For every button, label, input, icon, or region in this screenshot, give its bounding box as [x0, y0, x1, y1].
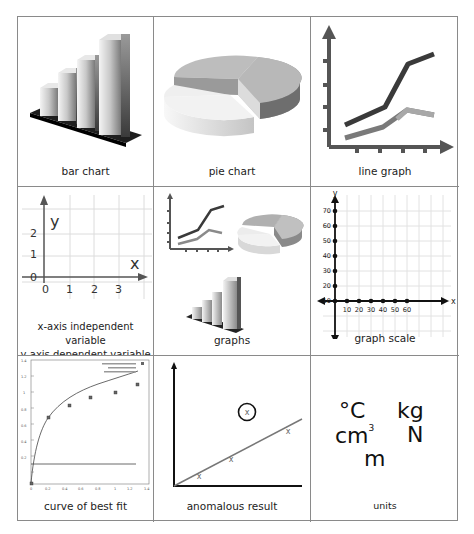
cell-line-graph: line graph — [311, 17, 459, 187]
svg-text:40: 40 — [379, 306, 387, 314]
svg-text:x: x — [130, 254, 139, 273]
svg-text:x: x — [197, 472, 202, 481]
svg-text:50: 50 — [391, 306, 399, 314]
svg-text:30: 30 — [323, 267, 331, 275]
bar-chart-3d-icon — [26, 25, 146, 155]
cell-bar-chart: bar chart — [18, 17, 154, 187]
svg-text:y: y — [333, 189, 338, 198]
svg-text:60: 60 — [403, 306, 411, 314]
graph-scale-diagram: y x 70 60 50 40 30 20 10 10 20 30 40 50 … — [311, 187, 459, 339]
caption-graph-scale: graph scale — [311, 332, 459, 344]
cell-pie-chart: pie chart — [154, 17, 311, 187]
anomalous-result-plot: x x x x — [154, 356, 311, 496]
svg-text:10: 10 — [343, 306, 351, 314]
svg-text:1: 1 — [66, 283, 73, 296]
svg-text:50: 50 — [323, 237, 331, 245]
caption-axes: x-axis independent variable y-axis depen… — [18, 320, 153, 356]
svg-text:1: 1 — [114, 487, 116, 491]
cell-axes: y x 2 1 0 0 1 2 3 x-axis independent var… — [18, 187, 154, 356]
svg-text:1: 1 — [30, 248, 37, 261]
cell-curve-best-fit: 1.4 1.2 1 0.8 0.6 0.4 0.2 0 0.2 0.4 0.6 … — [18, 356, 154, 522]
svg-text:0: 0 — [30, 271, 37, 284]
svg-text:0.4: 0.4 — [21, 440, 27, 444]
caption-bar-chart: bar chart — [18, 165, 153, 177]
svg-text:0.4: 0.4 — [62, 487, 68, 491]
svg-text:0.6: 0.6 — [78, 487, 84, 491]
svg-text:20: 20 — [323, 282, 331, 290]
caption-curve-best-fit: curve of best fit — [18, 500, 153, 512]
svg-text:0: 0 — [42, 283, 49, 296]
pie-chart-3d-icon — [160, 37, 306, 147]
svg-text:x: x — [451, 297, 456, 306]
caption-y-axis: y-axis dependent variable — [18, 348, 153, 356]
svg-text:x: x — [229, 455, 234, 464]
svg-text:x: x — [286, 427, 291, 436]
svg-text:0.8: 0.8 — [95, 487, 101, 491]
mini-bar-chart-icon — [184, 275, 248, 337]
svg-text:60: 60 — [323, 222, 331, 230]
svg-text:2: 2 — [30, 227, 37, 240]
svg-text:1.2: 1.2 — [21, 375, 27, 379]
mini-pie-chart-icon — [236, 207, 304, 257]
svg-text:y: y — [50, 212, 59, 231]
caption-x-axis: x-axis independent variable — [18, 320, 153, 348]
caption-line-graph: line graph — [311, 165, 459, 177]
svg-text:x: x — [245, 408, 250, 417]
cell-units: °C kg cm3 N m units — [311, 356, 459, 522]
svg-text:0.8: 0.8 — [21, 408, 27, 412]
svg-text:1.2: 1.2 — [127, 487, 133, 491]
curve-of-best-fit-plot: 1.4 1.2 1 0.8 0.6 0.4 0.2 0 0.2 0.4 0.6 … — [18, 356, 154, 496]
line-graph-icon — [317, 23, 457, 158]
unit-metre: m — [364, 448, 385, 470]
graph-types-grid: bar chart pie chart — [17, 16, 458, 521]
svg-text:70: 70 — [323, 207, 331, 215]
cell-graphs: graphs — [154, 187, 311, 356]
unit-newton: N — [407, 424, 423, 446]
caption-pie-chart: pie chart — [154, 165, 310, 177]
svg-text:0: 0 — [30, 487, 32, 491]
cell-anomalous-result: x x x x anomalous result — [154, 356, 311, 522]
svg-text:3: 3 — [115, 283, 122, 296]
caption-units: units — [311, 500, 459, 511]
svg-text:40: 40 — [323, 252, 331, 260]
axes-diagram: y x 2 1 0 0 1 2 3 — [18, 187, 154, 302]
svg-text:0.2: 0.2 — [45, 487, 51, 491]
cell-graph-scale: y x 70 60 50 40 30 20 10 10 20 30 40 50 … — [311, 187, 459, 356]
svg-text:1: 1 — [23, 391, 25, 395]
caption-graphs: graphs — [154, 334, 310, 346]
svg-text:30: 30 — [367, 306, 375, 314]
mini-line-graph-icon — [164, 193, 234, 255]
unit-cubic-centimetre: cm3 — [335, 424, 374, 447]
svg-text:0.6: 0.6 — [21, 424, 27, 428]
unit-celsius: °C — [339, 400, 365, 422]
svg-text:20: 20 — [355, 306, 363, 314]
svg-text:2: 2 — [91, 283, 98, 296]
unit-kilogram: kg — [397, 400, 424, 422]
svg-text:10: 10 — [323, 297, 331, 305]
caption-anomalous-result: anomalous result — [154, 500, 310, 512]
svg-text:0.2: 0.2 — [21, 456, 27, 460]
svg-text:1.4: 1.4 — [21, 359, 27, 363]
svg-text:1.4: 1.4 — [144, 487, 150, 491]
